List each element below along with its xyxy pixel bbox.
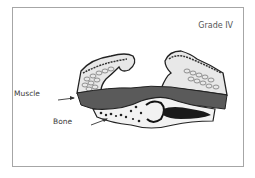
- left-skin-flap: [77, 54, 135, 93]
- bone-pointer-arrow: [91, 119, 108, 126]
- figure-frame: Grade IV: [12, 7, 244, 167]
- muscle-label: Muscle: [14, 89, 40, 98]
- muscle-pointer-arrow: [58, 96, 75, 100]
- pressure-ulcer-illustration: [13, 8, 245, 168]
- bone-label: Bone: [53, 117, 72, 126]
